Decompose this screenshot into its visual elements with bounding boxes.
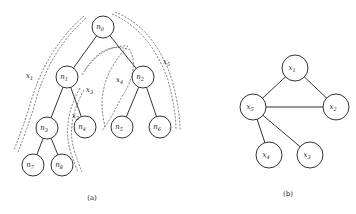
tree-node-n7: n7	[22, 154, 44, 176]
graph-node-x4: x4	[256, 142, 282, 168]
path-x3-outline	[85, 48, 133, 129]
tree-node-n6: n6	[149, 116, 171, 138]
tree-nodes: n0n1n2n3n4n5n6n7n8	[22, 16, 171, 176]
caption-a: (a)	[87, 194, 97, 202]
tree-node-n3: n3	[36, 117, 58, 139]
graph-node-x1: x1	[282, 55, 308, 81]
tree-node-n2: n2	[132, 66, 154, 88]
path-label-x1: x1	[26, 72, 33, 81]
tree-node-n0: n0	[92, 16, 114, 38]
graph-node-x5: x5	[240, 94, 266, 120]
path-label-x4: x4	[116, 76, 123, 85]
graph-nodes: x1x2x3x4x5	[240, 55, 349, 168]
tree-node-n1: n1	[56, 66, 78, 88]
path-label-x2: x2	[72, 112, 79, 121]
tree-node-n8: n8	[51, 154, 73, 176]
tree-node-n5: n5	[111, 116, 133, 138]
path-label-x3: x3	[86, 86, 93, 95]
graph-node-x2: x2	[323, 94, 349, 120]
path-label-x5: x5	[163, 58, 170, 67]
tree-edges	[33, 27, 160, 165]
graph-node-x3: x3	[297, 142, 323, 168]
caption-b: (b)	[283, 190, 293, 198]
figure: n0n1n2n3n4n5n6n7n8 x1 x2 x3 x4 x5 (a) x1…	[0, 0, 356, 214]
